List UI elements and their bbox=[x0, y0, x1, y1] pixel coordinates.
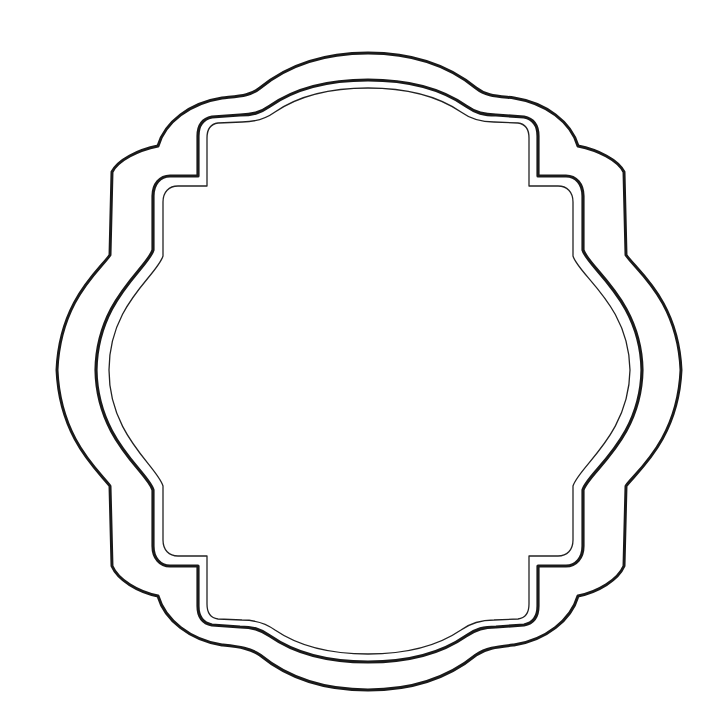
decorative-frame bbox=[0, 0, 720, 719]
inner-border bbox=[109, 88, 630, 654]
